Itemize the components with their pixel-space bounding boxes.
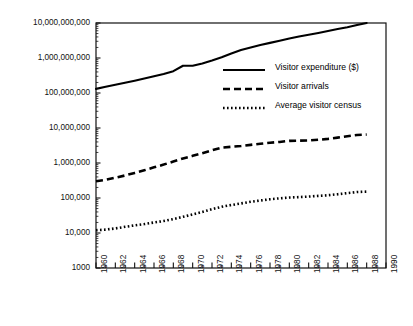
legend-item-average-visitor-census: Average visitor census: [223, 99, 383, 118]
x-axis-tick-label: 1970: [197, 255, 206, 273]
legend-label-visitor-expenditure: Visitor expenditure ($): [275, 62, 359, 73]
x-axis-tick-label: 1990: [390, 255, 399, 273]
chart-legend: Visitor expenditure ($) Visitor arrivals…: [223, 61, 383, 118]
x-axis-tick-label: 1976: [255, 255, 264, 273]
x-axis-tick-label: 1984: [332, 255, 341, 273]
x-axis-tick-label: 1966: [158, 255, 167, 273]
x-axis-tick-label: 1988: [371, 255, 380, 273]
legend-item-visitor-arrivals: Visitor arrivals: [223, 80, 383, 99]
legend-swatch-solid-icon: [223, 68, 265, 72]
legend-swatch-dashed-icon: [223, 87, 265, 91]
x-axis-tick-label: 1980: [293, 255, 302, 273]
chart-figure: 10,000,000,0001,000,000,000100,000,00010…: [0, 0, 413, 326]
legend-label-average-visitor-census: Average visitor census: [275, 100, 361, 111]
x-axis-tick-label: 1962: [119, 255, 128, 273]
x-axis-tick-label: 1974: [235, 255, 244, 273]
legend-swatch-dotted-icon: [223, 106, 265, 110]
x-axis-tick-label: 1972: [216, 255, 225, 273]
x-axis-tick-label: 1978: [274, 255, 283, 273]
x-axis-tick-label: 1982: [313, 255, 322, 273]
legend-label-visitor-arrivals: Visitor arrivals: [275, 81, 329, 92]
x-axis-label-group: 1960196219641966196819701972197419761978…: [0, 0, 413, 326]
x-axis-tick-label: 1986: [351, 255, 360, 273]
x-axis-tick-label: 1968: [177, 255, 186, 273]
x-axis-tick-label: 1964: [139, 255, 148, 273]
x-axis-tick-label: 1960: [100, 255, 109, 273]
legend-item-visitor-expenditure: Visitor expenditure ($): [223, 61, 383, 80]
